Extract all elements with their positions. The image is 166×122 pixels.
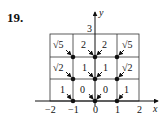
point [93, 77, 98, 82]
point [115, 99, 120, 104]
direction-field-diagram: 19. x y 3 −2 −1 0 1 2 √5 2 2 √5 √2 1 1 √… [0, 0, 166, 122]
cell-value: √2 [53, 62, 64, 73]
point [93, 55, 98, 60]
point [93, 99, 98, 104]
y-axis-label: y [98, 7, 104, 18]
x-tick: 1 [115, 104, 120, 115]
cell-value: 2 [102, 39, 107, 50]
x-tick: −2 [45, 104, 56, 115]
cell-value: 1 [60, 84, 65, 95]
cell-value: 2 [81, 39, 86, 50]
cell-value: √2 [122, 62, 133, 73]
x-axis-label: x [152, 103, 158, 114]
cell-value: 1 [82, 62, 87, 73]
point [71, 77, 76, 82]
cell-value: 0 [80, 84, 85, 95]
problem-number: 19. [7, 10, 23, 25]
x-tick: −1 [68, 104, 79, 115]
cell-value: √5 [122, 39, 133, 50]
point [71, 55, 76, 60]
x-tick: 2 [137, 104, 142, 115]
point [71, 99, 76, 104]
point [115, 77, 120, 82]
y-tick-3: 3 [87, 23, 92, 34]
cell-value: 0 [103, 84, 108, 95]
x-tick: 0 [93, 104, 98, 115]
cell-value: 1 [124, 84, 129, 95]
cell-value: √5 [53, 39, 64, 50]
point [115, 55, 120, 60]
cell-value: 1 [103, 62, 108, 73]
